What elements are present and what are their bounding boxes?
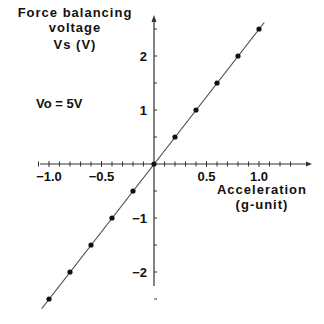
x-tick-label: 0.5	[197, 169, 215, 184]
data-point	[151, 161, 156, 166]
data-point	[256, 26, 261, 31]
data-point	[109, 215, 114, 220]
y-axis-arrow-icon	[152, 15, 157, 22]
y-tick-label: 2	[140, 49, 147, 64]
data-point	[172, 134, 177, 139]
data-point	[67, 269, 72, 274]
x-tick-label: −1.0	[36, 169, 62, 184]
y-axis-label: voltage	[49, 20, 102, 35]
y-axis-label: Force balancing	[18, 5, 133, 20]
y-tick-label: 1	[140, 103, 147, 118]
chart: −1.0−0.50.51.0−2−112Force balancingvolta…	[0, 0, 324, 324]
x-axis-label: (g-unit)	[236, 197, 289, 212]
data-point	[193, 107, 198, 112]
data-point	[235, 53, 240, 58]
x-axis-label: Acceleration	[217, 182, 307, 197]
y-tick-label: −2	[132, 265, 147, 280]
data-point	[214, 80, 219, 85]
data-point	[46, 296, 51, 301]
data-point	[88, 242, 93, 247]
annotation-vo: Vo = 5V	[36, 96, 83, 111]
x-tick-label: −0.5	[89, 169, 115, 184]
x-axis-arrow-icon	[306, 162, 312, 167]
y-tick-label: −1	[132, 211, 147, 226]
y-axis-label: Vs (V)	[54, 37, 97, 52]
data-point	[130, 188, 135, 193]
